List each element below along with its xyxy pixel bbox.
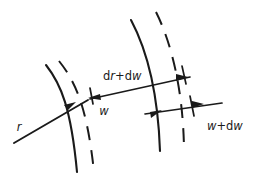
label-radius-text: r (17, 120, 23, 134)
label-width-text: w (99, 104, 109, 118)
label-width-plus-italic-2: w (233, 119, 243, 133)
label-delta-plus: +d (115, 69, 132, 83)
w-boundary-tick (90, 88, 93, 104)
label-width-plus: w+dw (207, 119, 243, 133)
w-dw-left-arrowhead (150, 110, 162, 118)
diagram-canvas: r w dr+dw w+dw (0, 0, 253, 179)
radius-ray-inner-segment (14, 100, 88, 143)
outer-wavefront-solid-arc (131, 20, 160, 151)
label-radius: r (17, 120, 23, 134)
label-delta-italic-2: w (132, 69, 142, 83)
dr-dw-dimension-arrowhead (176, 74, 188, 81)
label-delta: dr+dw (103, 69, 142, 83)
inner-wavefront-dashed-arc (59, 61, 94, 172)
label-delta-prefix: d (103, 69, 110, 83)
label-width: w (99, 104, 109, 118)
dr-dw-boundary-tick (182, 66, 186, 84)
label-width-plus-plus: +d (216, 119, 233, 133)
wavefront-diagram-figure: r w dr+dw w+dw (0, 0, 253, 179)
